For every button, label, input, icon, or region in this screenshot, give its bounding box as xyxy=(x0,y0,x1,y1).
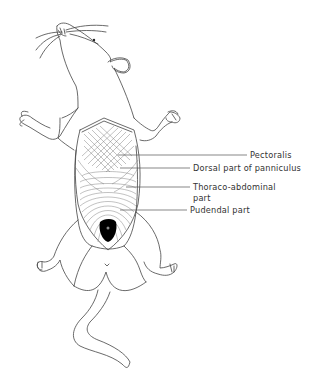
right-forelimb xyxy=(134,111,180,141)
rat-head xyxy=(36,23,134,118)
lower-abdomen xyxy=(74,264,146,291)
pudendal-area xyxy=(99,219,116,242)
left-hindlimb xyxy=(37,220,92,286)
label-thoraco-abdominal: Thoraco-abdominal xyxy=(193,182,276,192)
label-pectoralis: Pectoralis xyxy=(250,150,292,160)
label-thoraco-abdominal-part: part xyxy=(193,193,211,203)
right-hindlimb xyxy=(124,212,177,282)
tail xyxy=(73,290,130,368)
rat-panniculus-diagram: Pectoralis Dorsal part of panniculus Tho… xyxy=(0,0,315,373)
label-pudendal: Pudendal part xyxy=(190,205,250,215)
label-dorsal-panniculus: Dorsal part of panniculus xyxy=(193,163,301,173)
